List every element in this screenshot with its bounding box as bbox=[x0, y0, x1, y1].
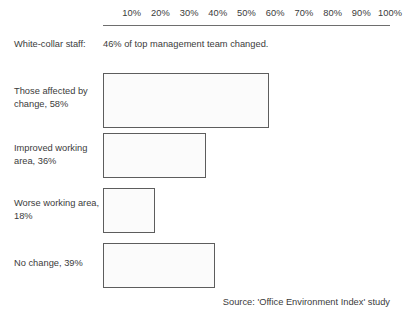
bar-label: No change, 39% bbox=[14, 257, 102, 270]
bar-rect bbox=[103, 188, 155, 233]
bars-area: Those affected by change, 58%Improved wo… bbox=[0, 0, 403, 315]
bar-rect bbox=[103, 133, 206, 178]
bar-label: Those affected by change, 58% bbox=[14, 85, 102, 110]
bar-rect bbox=[103, 73, 269, 128]
source-note: Source: 'Office Environment Index' study bbox=[223, 297, 390, 307]
bar-label: Improved working area, 36% bbox=[14, 142, 102, 167]
bar-label: Worse working area, 18% bbox=[14, 197, 102, 222]
bar-rect bbox=[103, 243, 215, 288]
bar-chart: 10%20%30%40%50%60%70%80%90%100% White-co… bbox=[0, 0, 403, 315]
